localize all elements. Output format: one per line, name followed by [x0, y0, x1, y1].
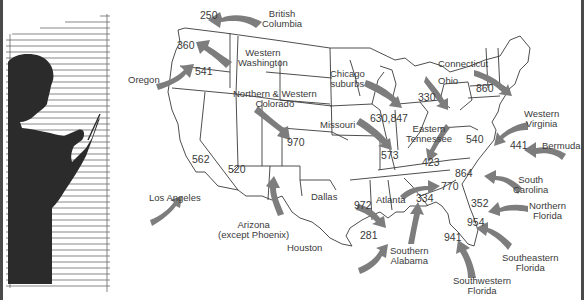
label-line: suburbs — [330, 79, 365, 89]
area-code-352: 352 — [471, 198, 489, 209]
label-line: Tennessee — [406, 134, 452, 144]
arrow-southern-alabama — [408, 202, 424, 244]
label-line: Los Angeles — [149, 193, 201, 203]
us-area-code-map — [0, 0, 585, 300]
label-line: Dallas — [311, 192, 337, 202]
label-line: Virginia — [524, 119, 559, 129]
label-line: Carolina — [513, 185, 548, 195]
area-code-360: 360 — [177, 40, 195, 51]
region-label-missouri: Missouri — [320, 120, 355, 130]
area-code-954: 954 — [467, 217, 485, 228]
label-line: Houston — [287, 243, 322, 253]
region-label-connecticut: Connecticut — [438, 59, 488, 69]
area-code-250: 250 — [200, 10, 218, 21]
label-line: Oregon — [128, 75, 160, 85]
region-label-western-washington: Western Washington — [238, 48, 288, 68]
area-code-770: 770 — [441, 181, 459, 192]
label-line: Bermuda — [542, 141, 581, 151]
area-code-864: 864 — [455, 168, 473, 179]
label-line: Washington — [238, 58, 288, 68]
label-line: Colorado — [233, 99, 317, 109]
area-code-972: 972 — [354, 200, 372, 211]
region-label-south-carolina: South Carolina — [513, 175, 548, 195]
region-label-los-angeles: Los Angeles — [149, 193, 201, 203]
region-label-houston: Houston — [287, 243, 322, 253]
area-code-540: 540 — [466, 134, 484, 145]
label-line: (except Phoenix) — [218, 230, 289, 240]
label-line: Missouri — [320, 120, 355, 130]
region-label-ohio: Ohio — [438, 76, 458, 86]
area-code-330: 330 — [418, 92, 436, 103]
label-line: Florida — [529, 211, 566, 221]
area-code-941: 941 — [444, 232, 462, 243]
region-label-atlanta: Atlanta — [376, 195, 406, 205]
label-line: Florida — [453, 286, 511, 296]
label-line: Florida — [502, 263, 559, 273]
region-label-southeastern-florida: Southeastern Florida — [502, 253, 559, 273]
label-line: Ohio — [438, 76, 458, 86]
area-code-562: 562 — [192, 154, 210, 165]
region-label-dallas: Dallas — [311, 192, 337, 202]
arrow-colorado — [254, 106, 290, 140]
region-label-arizona: Arizona (except Phoenix) — [218, 220, 289, 240]
region-label-eastern-tennessee: Eastern Tennessee — [406, 124, 452, 144]
area-code-520: 520 — [228, 164, 246, 175]
area-code-541: 541 — [195, 66, 213, 77]
region-label-british-columbia: British Columbia — [262, 9, 302, 29]
area-code-334: 334 — [416, 193, 434, 204]
area-code-573: 573 — [381, 150, 399, 161]
label-line: Connecticut — [438, 59, 488, 69]
region-label-colorado: Northern & Western Colorado — [233, 89, 317, 109]
area-code-630-847: 630,847 — [370, 113, 408, 124]
split-arrows — [150, 12, 566, 278]
region-label-northern-florida: Northern Florida — [529, 201, 566, 221]
region-label-southern-alabama: Southern Alabama — [390, 246, 429, 266]
label-line: Columbia — [262, 19, 302, 29]
label-line: Atlanta — [376, 195, 406, 205]
area-code-423: 423 — [422, 157, 440, 168]
region-label-southwestern-florida: Southwestern Florida — [453, 276, 511, 296]
region-label-western-virginia: Western Virginia — [524, 109, 559, 129]
arrow-northern-florida — [488, 202, 528, 216]
arrow-houston — [358, 244, 388, 274]
arrow-western-washington — [196, 40, 232, 68]
label-line: Alabama — [390, 256, 429, 266]
area-code-970: 970 — [287, 137, 305, 148]
area-code-860: 860 — [476, 83, 494, 94]
area-code-441: 441 — [510, 140, 528, 151]
region-label-bermuda: Bermuda — [542, 141, 581, 151]
area-code-281: 281 — [360, 230, 378, 241]
region-label-chicago-suburbs: Chicago suburbs — [330, 69, 365, 89]
arrow-oregon — [156, 64, 194, 90]
region-label-oregon: Oregon — [128, 75, 160, 85]
